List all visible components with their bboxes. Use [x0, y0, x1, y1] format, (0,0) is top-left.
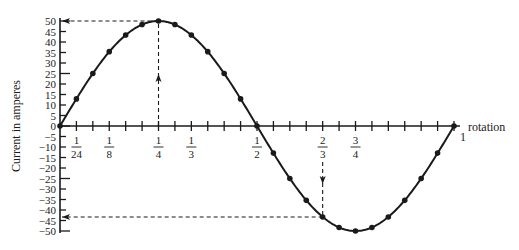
x-tick-numerator: 3	[353, 134, 359, 146]
data-point	[369, 225, 375, 231]
y-axis-label: Current in amperes	[9, 80, 24, 172]
data-point	[254, 123, 260, 129]
x-tick-label-one: 1	[460, 130, 466, 144]
x-tick-numerator: 1	[74, 134, 80, 146]
data-point	[90, 71, 96, 77]
x-tick-denominator: 3	[320, 148, 326, 160]
data-point	[205, 49, 211, 55]
x-tick-numerator: 1	[107, 134, 113, 146]
x-tick-denominator: 4	[353, 148, 359, 160]
data-point	[221, 71, 227, 77]
data-point	[189, 32, 195, 38]
data-point	[139, 22, 145, 28]
data-point	[106, 49, 112, 55]
x-tick-denominator: 24	[71, 148, 83, 160]
data-point	[123, 32, 129, 38]
y-tick-label: −50	[39, 225, 57, 237]
sine-chart: 50454035302520151050−5−10−15−20−25−30−35…	[0, 0, 519, 250]
data-point	[303, 198, 309, 204]
x-tick-denominator: 2	[254, 148, 260, 160]
data-point	[418, 176, 424, 182]
x-tick-numerator: 1	[156, 134, 162, 146]
data-point	[238, 96, 244, 102]
data-point	[386, 214, 392, 220]
x-tick-denominator: 3	[189, 148, 195, 160]
data-point	[74, 96, 80, 102]
x-axis-label: rotation	[468, 120, 505, 135]
data-point	[402, 198, 408, 204]
data-point	[172, 22, 178, 28]
data-point	[435, 150, 441, 156]
x-tick-numerator: 1	[254, 134, 260, 146]
data-point	[57, 123, 63, 129]
data-point	[287, 176, 293, 182]
data-point	[353, 228, 359, 234]
x-tick-denominator: 8	[107, 148, 113, 160]
x-tick-numerator: 2	[320, 134, 326, 146]
data-point	[271, 150, 277, 156]
data-point	[451, 123, 457, 129]
data-point	[336, 225, 342, 231]
x-tick-denominator: 4	[156, 148, 162, 160]
x-tick-numerator: 1	[189, 134, 195, 146]
